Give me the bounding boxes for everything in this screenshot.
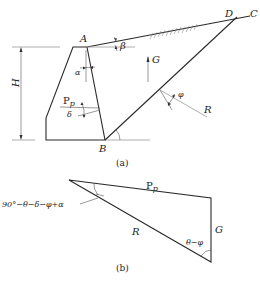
top-angle-label: 90°−θ−δ−φ+α — [2, 200, 64, 209]
theta-arc — [116, 130, 120, 140]
top-angle-leader — [80, 198, 98, 204]
retaining-wall — [46, 47, 105, 140]
delta-reference-line — [78, 110, 100, 116]
soil-hatching — [150, 24, 197, 39]
beta-arrow2-icon — [115, 46, 118, 49]
slip-plane-line — [105, 17, 237, 140]
point-a-label: A — [79, 33, 87, 44]
pp-force-line — [60, 107, 100, 108]
delta-arrow2-icon — [83, 115, 86, 118]
arrow-down-icon — [20, 135, 23, 140]
reaction-side-label: R — [131, 226, 140, 237]
beta-label: β — [119, 40, 126, 51]
point-d-label: D — [224, 8, 233, 19]
figure-a: H A B C D — [10, 8, 258, 168]
weight-label: G — [152, 54, 160, 65]
figure-b-caption: (b) — [116, 263, 129, 273]
height-label: H — [10, 78, 21, 88]
retaining-wall-diagram: H A B C D — [0, 0, 260, 283]
bottom-angle-arc — [201, 250, 211, 256]
figure-a-caption: (a) — [116, 158, 128, 168]
top-angle-arc — [94, 183, 98, 195]
force-triangle — [69, 180, 211, 262]
arrow-up-icon — [20, 47, 23, 52]
point-b-label: B — [98, 143, 106, 154]
bottom-angle-label: θ−φ — [186, 238, 204, 247]
pp-label: Pp — [63, 95, 75, 108]
phi-label: φ — [178, 90, 184, 99]
reaction-label: R — [203, 104, 212, 115]
point-c-label: C — [250, 8, 258, 19]
pp-side-label: Pp — [146, 180, 158, 193]
weight-arrow-icon — [147, 56, 150, 62]
weight-side-label: G — [215, 224, 223, 235]
alpha-arrow-icon — [83, 67, 86, 70]
delta-arrow-icon — [81, 102, 84, 105]
figure-b: 90°−θ−δ−φ+α θ−φ Pp R G (b) — [2, 180, 223, 273]
alpha-label: α — [75, 68, 81, 77]
delta-label: δ — [67, 110, 72, 119]
